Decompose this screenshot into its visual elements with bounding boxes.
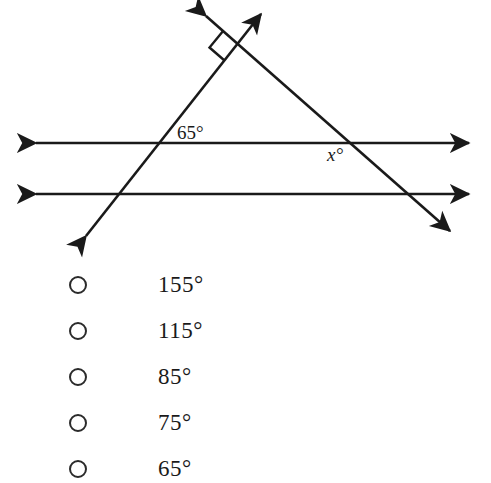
choice-label-2: 115° — [158, 318, 203, 344]
transversal-ascending-line — [86, 14, 261, 236]
choice-label-3: 85° — [158, 364, 192, 390]
choice-row-1[interactable]: 155° — [0, 262, 491, 308]
choice-label-4: 75° — [158, 410, 192, 436]
radio-button-5[interactable] — [69, 460, 87, 478]
choice-row-3[interactable]: 85° — [0, 354, 491, 400]
radio-button-4[interactable] — [69, 414, 87, 432]
choice-row-4[interactable]: 75° — [0, 400, 491, 446]
radio-button-1[interactable] — [69, 276, 87, 294]
choice-row-2[interactable]: 115° — [0, 308, 491, 354]
angle-label-x: x° — [326, 144, 343, 165]
angle-label-65: 65° — [177, 122, 204, 143]
transversal-descending-line — [206, 16, 450, 231]
choice-label-5: 65° — [158, 456, 192, 482]
right-angle-mark-icon — [210, 31, 225, 61]
geometry-figure: 65° x° — [0, 0, 491, 260]
choice-label-1: 155° — [158, 272, 204, 298]
choice-row-5[interactable]: 65° — [0, 446, 491, 483]
radio-button-2[interactable] — [69, 322, 87, 340]
answer-choices-list: 155° 115° 85° 75° 65° — [0, 262, 491, 483]
radio-button-3[interactable] — [69, 368, 87, 386]
